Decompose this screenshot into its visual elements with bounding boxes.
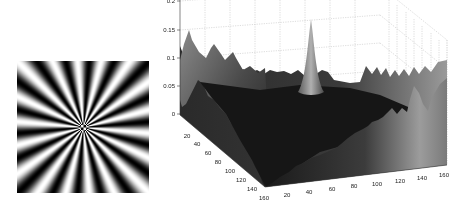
x-tick: 140	[417, 175, 428, 181]
y-tick: 20	[184, 133, 191, 139]
z-tick: 0	[172, 111, 176, 117]
x-tick: 20	[284, 192, 291, 198]
x-tick: 120	[395, 178, 406, 184]
x-tick: 100	[372, 181, 383, 187]
y-tick: 160	[259, 195, 270, 201]
y-tick: 100	[225, 168, 236, 174]
y-tick: 60	[205, 150, 212, 156]
y-tick: 140	[247, 186, 258, 192]
z-tick: 0.1	[167, 55, 176, 61]
x-tick: 60	[329, 186, 336, 192]
z-tick: 0.05	[163, 83, 175, 89]
z-tick-labels: 0.2 0.15 0.1 0.05 0	[163, 0, 175, 117]
y-tick: 40	[194, 141, 201, 147]
z-tick: 0.2	[167, 0, 176, 4]
x-tick: 40	[306, 189, 313, 195]
z-tick: 0.15	[163, 27, 175, 33]
y-tick: 80	[215, 159, 222, 165]
surface-plot: 0.2 0.15 0.1 0.05 0 20 40 60 80 100 120 …	[0, 0, 470, 212]
x-tick: 160	[439, 172, 450, 178]
x-tick: 80	[351, 183, 358, 189]
y-tick: 120	[236, 177, 247, 183]
